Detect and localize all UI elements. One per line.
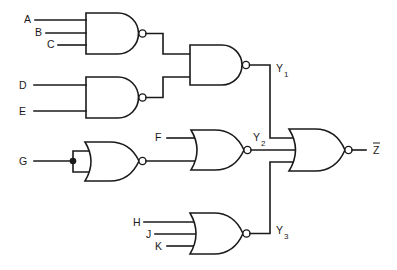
label-d: D [19, 79, 27, 91]
label-c: C [47, 38, 55, 50]
nor-gate-z [289, 129, 352, 171]
nand-gate-y1 [190, 45, 250, 85]
label-k: K [155, 240, 162, 252]
label-z-bar: Z [373, 144, 380, 156]
label-y1: Y [276, 62, 283, 74]
junction-dot [70, 158, 77, 165]
nand-gate-abc [86, 13, 146, 54]
label-g: G [19, 155, 27, 167]
wire-nand1-to-nand3 [146, 34, 190, 55]
label-h: H [133, 216, 141, 228]
label-f: F [155, 131, 161, 143]
nor-gate-g [85, 142, 146, 181]
nor-gate-y2 [191, 130, 251, 170]
label-y3: Y [276, 224, 283, 236]
nor-gate-y3 [190, 213, 250, 254]
logic-circuit-diagram: A B C D E Y 1 G F Y 2 H J K [0, 0, 397, 270]
label-b: B [35, 26, 42, 38]
label-j: J [146, 228, 151, 240]
wire-nand2-to-nand3 [146, 77, 190, 98]
label-y2-subscript: 2 [261, 139, 266, 148]
nand-gate-de [86, 77, 146, 118]
label-y3-subscript: 3 [284, 232, 289, 241]
label-y2: Y [253, 131, 260, 143]
label-y1-subscript: 1 [284, 70, 289, 79]
label-a: A [24, 13, 31, 25]
label-e: E [19, 105, 26, 117]
wire-y1 [250, 65, 296, 138]
wire-y3 [250, 162, 296, 234]
